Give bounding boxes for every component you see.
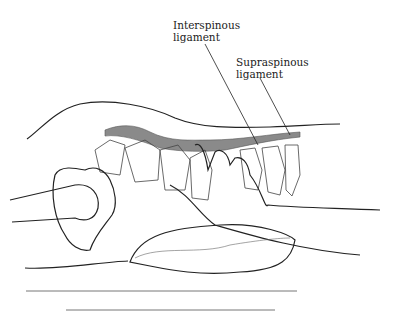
label-line: ligament — [173, 31, 240, 43]
anatomy-illustration — [0, 0, 399, 319]
supraspinous-label: Supraspinous ligament — [236, 56, 309, 80]
pillow-crease — [135, 238, 290, 258]
label-line: ligament — [236, 68, 309, 80]
table-surface — [25, 261, 128, 268]
examiner-hand — [170, 144, 380, 255]
interspinous-label: Interspinous ligament — [173, 19, 240, 43]
label-line: Supraspinous — [236, 56, 309, 68]
label-line: Interspinous — [173, 19, 240, 31]
pelvis — [53, 168, 115, 250]
ligament-band — [105, 126, 300, 152]
